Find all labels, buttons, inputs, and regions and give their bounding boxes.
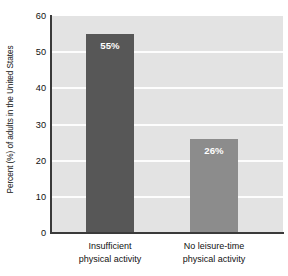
bar-chart: Percent (%) of adults in the United Stat… xyxy=(0,0,288,276)
y-tick-label: 50 xyxy=(22,47,46,57)
bar-insufficient-physical-activity: 55% xyxy=(86,34,134,233)
x-axis-category-labels: Insufficient physical activity No leisur… xyxy=(51,240,283,274)
y-axis-title: Percent (%) of adults in the United Stat… xyxy=(3,3,17,236)
y-axis-line xyxy=(50,15,52,234)
bar-data-label: 55% xyxy=(86,40,134,51)
y-tick-label: 10 xyxy=(22,192,46,202)
bar-data-label: 26% xyxy=(190,145,238,156)
y-tick-label: 30 xyxy=(22,120,46,130)
x-label-no-leisure-time-physical-activity: No leisure-time physical activity xyxy=(144,240,284,265)
plot-area: 55% 26% xyxy=(51,16,283,233)
y-axis-tick-labels: 60 50 40 30 20 10 0 xyxy=(22,0,46,276)
y-tick-label: 20 xyxy=(22,156,46,166)
y-tick-label: 60 xyxy=(22,11,46,21)
x-label-line: physical activity xyxy=(144,253,284,266)
y-tick-label: 40 xyxy=(22,83,46,93)
y-tick-label: 0 xyxy=(22,228,46,238)
bar-no-leisure-time-physical-activity: 26% xyxy=(190,139,238,233)
x-label-line: No leisure-time xyxy=(144,240,284,253)
x-axis-line xyxy=(50,232,284,234)
